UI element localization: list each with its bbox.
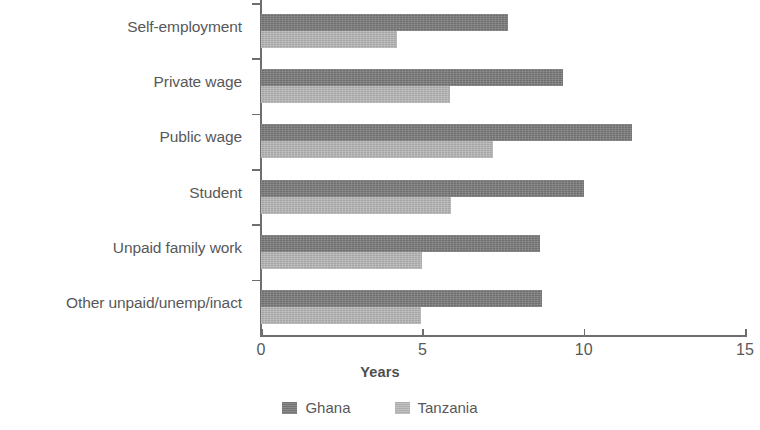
category-label-3: Student bbox=[0, 184, 242, 201]
legend-swatch-icon-ghana bbox=[282, 402, 297, 414]
y-axis-tick-2 bbox=[252, 114, 260, 116]
y-axis-tick-1 bbox=[252, 58, 260, 60]
x-axis-tick-0 bbox=[261, 329, 263, 337]
category-label-5: Other unpaid/unemp/inact bbox=[0, 294, 242, 311]
bar-ghana-3 bbox=[261, 180, 584, 197]
category-label-4: Unpaid family work bbox=[0, 239, 242, 256]
bar-ghana-0 bbox=[261, 14, 508, 31]
legend-swatch-icon-tanzania bbox=[395, 402, 410, 414]
bar-ghana-4 bbox=[261, 235, 540, 252]
x-axis-title: Years bbox=[0, 364, 760, 380]
bar-ghana-1 bbox=[261, 69, 563, 86]
plot-area bbox=[261, 3, 745, 335]
bar-ghana-5 bbox=[261, 290, 542, 307]
bar-tanzania-1 bbox=[261, 86, 450, 103]
bar-chart: Self-employmentPrivate wagePublic wageSt… bbox=[0, 0, 760, 430]
legend-label-ghana: Ghana bbox=[305, 399, 350, 416]
legend-label-tanzania: Tanzania bbox=[418, 399, 478, 416]
x-axis-line bbox=[260, 335, 746, 337]
legend-item-tanzania: Tanzania bbox=[395, 399, 478, 416]
bar-ghana-2 bbox=[261, 124, 632, 141]
x-axis-tick-15 bbox=[745, 329, 747, 337]
bar-tanzania-0 bbox=[261, 31, 397, 48]
category-label-0: Self-employment bbox=[0, 18, 242, 35]
chart-legend: GhanaTanzania bbox=[0, 399, 760, 416]
x-axis-tick-label-5: 5 bbox=[418, 340, 427, 360]
x-axis-tick-5 bbox=[422, 329, 424, 337]
bar-tanzania-2 bbox=[261, 141, 493, 158]
x-axis-tick-label-15: 15 bbox=[736, 340, 754, 360]
y-axis-tick-4 bbox=[252, 224, 260, 226]
x-axis-tick-label-10: 10 bbox=[575, 340, 593, 360]
legend-item-ghana: Ghana bbox=[282, 399, 350, 416]
bar-tanzania-5 bbox=[261, 307, 421, 324]
y-axis-tick-5 bbox=[252, 280, 260, 282]
bar-tanzania-3 bbox=[261, 197, 451, 214]
category-label-1: Private wage bbox=[0, 73, 242, 90]
x-axis-tick-10 bbox=[584, 329, 586, 337]
y-axis-tick-top bbox=[252, 3, 260, 5]
category-label-2: Public wage bbox=[0, 128, 242, 145]
y-axis-category-labels: Self-employmentPrivate wagePublic wageSt… bbox=[0, 3, 250, 335]
y-axis-tick-3 bbox=[252, 169, 260, 171]
bar-tanzania-4 bbox=[261, 252, 422, 269]
x-axis-tick-label-0: 0 bbox=[257, 340, 266, 360]
